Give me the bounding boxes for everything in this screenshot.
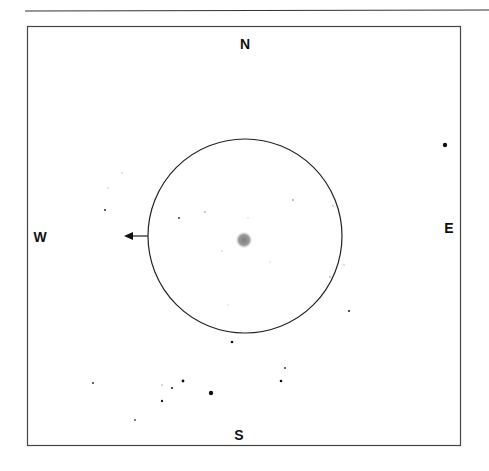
star xyxy=(221,250,222,251)
compass-west: W xyxy=(33,229,47,245)
star xyxy=(443,143,447,147)
compass-east: E xyxy=(444,220,453,236)
star xyxy=(231,341,234,344)
star-field-sketch: N S E W xyxy=(0,0,489,471)
galaxy-object xyxy=(235,231,253,249)
star xyxy=(104,209,106,211)
star xyxy=(204,211,206,213)
star xyxy=(292,199,294,201)
star xyxy=(171,387,173,389)
star xyxy=(329,276,331,278)
star xyxy=(161,400,163,402)
star xyxy=(247,217,248,218)
star xyxy=(209,391,213,395)
compass-north: N xyxy=(240,36,250,52)
star xyxy=(280,380,283,383)
motion-arrow xyxy=(124,232,148,240)
compass-south: S xyxy=(234,427,243,443)
arrow-head-icon xyxy=(124,232,133,240)
star xyxy=(332,205,334,207)
star xyxy=(182,380,185,383)
star xyxy=(134,419,136,421)
star xyxy=(121,172,123,174)
star xyxy=(178,217,180,219)
top-rule xyxy=(25,10,489,11)
star xyxy=(269,261,270,262)
star xyxy=(348,310,350,312)
stars-layer xyxy=(92,143,447,421)
star xyxy=(92,382,94,384)
star xyxy=(227,304,228,305)
star xyxy=(284,367,286,369)
star xyxy=(161,384,163,386)
star xyxy=(107,187,109,189)
star xyxy=(343,264,345,266)
